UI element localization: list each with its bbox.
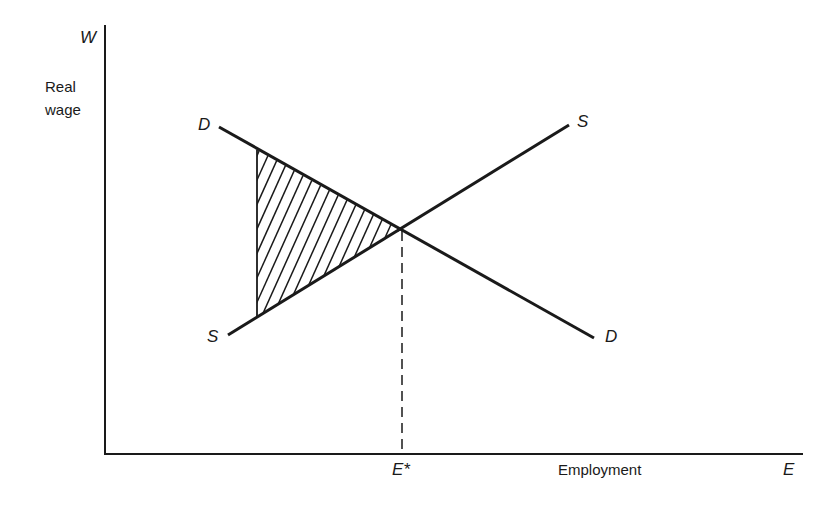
demand-label-left: D: [198, 115, 210, 135]
y-axis-label: Real wage: [45, 75, 81, 121]
x-axis-symbol: E: [783, 460, 794, 480]
demand-label-right: D: [605, 327, 617, 347]
y-axis-symbol: W: [80, 28, 96, 48]
equilibrium-employment-label: E*: [392, 460, 410, 480]
supply-label-left: S: [207, 327, 218, 347]
supply-label-right: S: [577, 112, 588, 132]
labour-market-diagram: [0, 0, 838, 509]
x-axis-label: Employment: [558, 458, 641, 481]
hatched-surplus-area: [174, 140, 451, 340]
